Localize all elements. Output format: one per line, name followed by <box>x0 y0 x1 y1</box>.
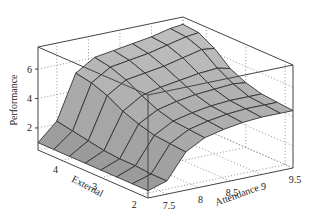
x-tick-label: 7.5 <box>163 200 176 211</box>
x-tick-label: 9.5 <box>289 174 302 185</box>
x-tick-label: 9 <box>261 181 266 192</box>
surface-plot: Performance External Attendance 2464327.… <box>0 0 316 219</box>
y-tick-label: 3 <box>92 181 97 192</box>
z-tick-label: 2 <box>27 122 32 133</box>
z-tick-label: 6 <box>27 64 32 75</box>
z-axis-label: Performance <box>8 74 19 126</box>
x-tick-label: 8.5 <box>226 187 239 198</box>
surface-mesh <box>38 24 293 190</box>
y-tick-label: 2 <box>132 199 137 210</box>
y-tick-label: 4 <box>53 164 58 175</box>
z-tick-label: 4 <box>27 93 32 104</box>
x-tick-label: 8 <box>198 194 203 205</box>
surface-plot-svg: Performance External Attendance 2464327.… <box>0 0 316 219</box>
